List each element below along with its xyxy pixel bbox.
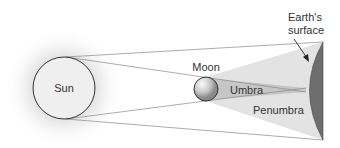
eclipse-diagram: Sun Moon Umbra Penumbra Earth's surface <box>0 0 340 148</box>
moon-label: Moon <box>192 61 220 73</box>
penumbra-label: Penumbra <box>253 104 305 116</box>
moon <box>194 77 218 101</box>
earth-label-line2: surface <box>288 24 324 36</box>
umbra-label: Umbra <box>230 84 264 96</box>
sun-label: Sun <box>54 82 74 94</box>
earth-label-line1: Earth's <box>288 11 322 23</box>
